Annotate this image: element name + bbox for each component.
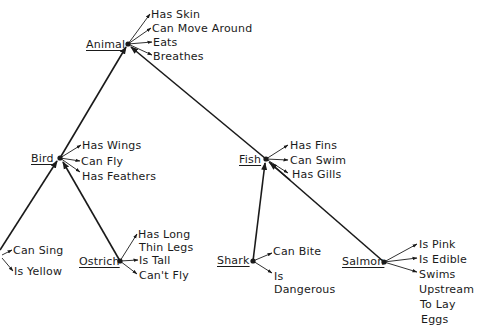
property-has-gills: Has Gills [292,168,341,181]
node-dot-animal [125,41,130,46]
property-is: Is [274,270,283,283]
property-to-lay: To Lay [420,298,456,311]
property-can-fly: Can Fly [81,155,123,168]
node-label-ostrich: Ostrich [79,255,120,268]
property-has-fins: Has Fins [290,139,337,152]
property-cant-fly: Can't Fly [139,269,189,282]
edge-canary-bird [0,161,57,250]
property-has-wings: Has Wings [82,139,141,152]
node-label-bird: Bird [31,152,54,165]
edge-shark-fish [253,163,265,261]
property-is-yellow: Is Yellow [14,265,62,278]
node-dot-bird [57,155,62,160]
node-dot-fish [263,156,268,161]
property-is-edible: Is Edible [419,253,467,266]
semantic-network-diagram: Animal Has Skin Can Move Around Eats Bre… [0,0,481,333]
property-swims: Swims [419,268,455,281]
property-eats: Eats [153,36,178,49]
property-is-pink: Is Pink [419,238,456,251]
property-can-move-around: Can Move Around [152,22,252,35]
node-label-salmon: Salmon [342,255,384,268]
diagram-edges [0,0,481,333]
property-can-bite: Can Bite [273,245,321,258]
edge-fish-animal [131,47,266,159]
node-dot-shark [250,258,255,263]
property-thin-legs: Thin Legs [139,241,193,254]
property-eggs: Eggs [421,313,448,326]
property-is-tall: Is Tall [139,254,171,267]
node-label-animal: Animal [86,38,125,51]
property-can-swim: Can Swim [290,154,346,167]
property-breathes: Breathes [153,50,204,63]
node-label-fish: Fish [239,153,261,166]
node-label-shark: Shark [217,254,250,267]
property-dangerous: Dangerous [274,283,335,296]
property-has-skin: Has Skin [151,8,200,21]
property-has-feathers: Has Feathers [82,170,156,183]
property-can-sing: Can Sing [13,244,63,257]
property-upstream: Upstream [419,283,474,296]
property-has-long: Has Long [138,228,190,241]
